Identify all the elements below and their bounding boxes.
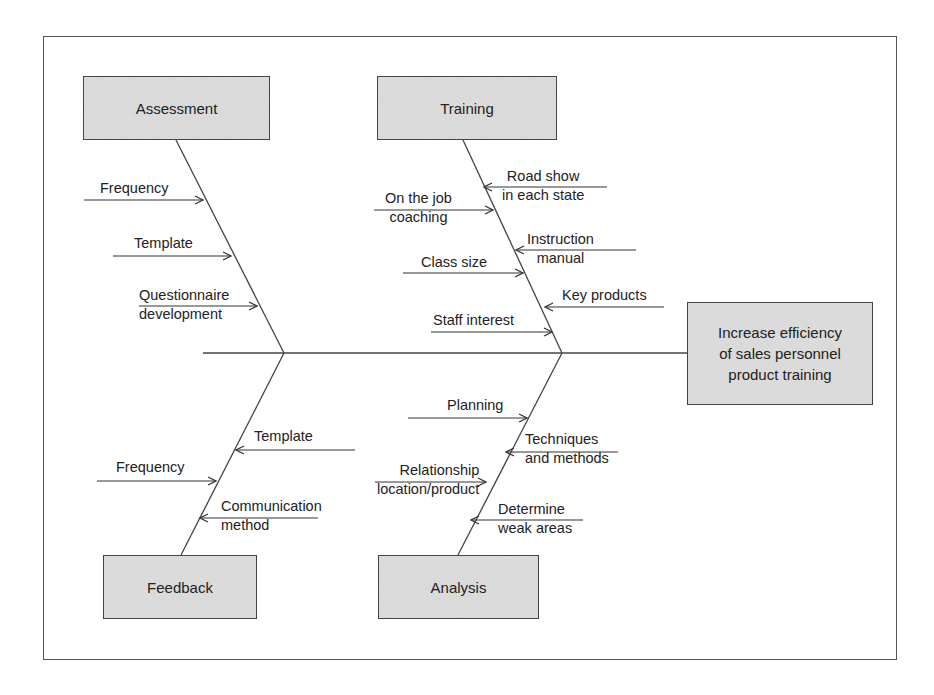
cause-label-training-instruction: Instruction manual (527, 230, 594, 268)
cause-label-feedback-frequency: Frequency (116, 458, 185, 477)
cause-line: coaching (385, 208, 452, 227)
cause-line: Questionnaire (139, 286, 229, 305)
cause-line: weak areas (498, 519, 572, 538)
cause-label-feedback-template: Template (254, 427, 313, 446)
effect-box: Increase efficiency of sales personnel p… (687, 302, 873, 405)
cause-line: Relationship (377, 461, 479, 480)
category-label: Feedback (147, 579, 213, 596)
category-label: Assessment (136, 100, 218, 117)
category-box-feedback: Feedback (103, 555, 257, 619)
cause-label-assessment-frequency: Frequency (100, 179, 169, 198)
category-box-assessment: Assessment (83, 76, 270, 140)
cause-label-training-key-products: Key products (562, 286, 647, 305)
cause-line: development (139, 305, 229, 324)
cause-label-analysis-planning: Planning (447, 396, 503, 415)
cause-line: and methods (525, 449, 609, 468)
cause-label-analysis-determine: Determine weak areas (498, 500, 572, 538)
cause-line: On the job (385, 189, 452, 208)
category-box-training: Training (377, 76, 557, 140)
cause-line: manual (527, 249, 594, 268)
effect-line-3: product training (728, 364, 831, 385)
cause-line: Road show (502, 167, 584, 186)
cause-line: in each state (502, 186, 584, 205)
category-label: Training (440, 100, 494, 117)
cause-label-training-road-show: Road show in each state (502, 167, 584, 205)
cause-label-training-staff-interest: Staff interest (433, 311, 514, 330)
category-box-analysis: Analysis (378, 555, 539, 619)
cause-label-analysis-relationship: Relationship location/product (377, 461, 479, 499)
cause-label-training-class-size: Class size (421, 253, 487, 272)
cause-line: Communication (221, 497, 322, 516)
effect-line-1: Increase efficiency (718, 322, 842, 343)
category-label: Analysis (431, 579, 487, 596)
cause-label-assessment-questionnaire: Questionnaire development (139, 286, 229, 324)
effect-line-2: of sales personnel (719, 343, 841, 364)
cause-label-assessment-template: Template (134, 234, 193, 253)
cause-line: method (221, 516, 322, 535)
cause-line: Techniques (525, 430, 609, 449)
cause-line: Determine (498, 500, 572, 519)
cause-label-analysis-techniques: Techniques and methods (525, 430, 609, 468)
cause-line: location/product (377, 480, 479, 499)
cause-label-feedback-communication: Communication method (221, 497, 322, 535)
cause-label-training-on-the-job: On the job coaching (385, 189, 452, 227)
cause-line: Instruction (527, 230, 594, 249)
